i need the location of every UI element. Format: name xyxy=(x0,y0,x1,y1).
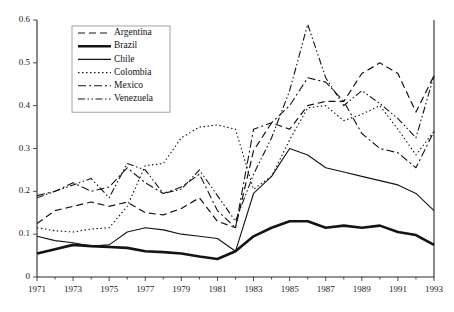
legend-label-argentina: Argentina xyxy=(114,27,153,37)
x-tick-label: 1981 xyxy=(208,284,226,294)
series-line-chile xyxy=(37,149,434,252)
x-tick-label: 1973 xyxy=(64,284,83,294)
x-tick-label: 1991 xyxy=(389,284,407,294)
x-axis-ticks: 1971197319751977197919811983198519871989… xyxy=(28,277,444,294)
x-tick-label: 1979 xyxy=(172,284,191,294)
legend-label-brazil: Brazil xyxy=(114,40,138,50)
legend-label-colombia: Colombia xyxy=(114,67,152,77)
y-tick-label: 0.5 xyxy=(19,57,31,67)
x-tick-label: 1993 xyxy=(425,284,444,294)
legend: ArgentinaBrazilChileColombiaMexicoVenezu… xyxy=(72,26,170,112)
y-tick-label: 0.4 xyxy=(19,100,31,110)
line-chart: 00.10.20.30.40.50.6 19711973197519771979… xyxy=(0,0,454,312)
legend-label-mexico: Mexico xyxy=(114,80,143,90)
y-tick-label: 0 xyxy=(26,271,31,281)
x-tick-label: 1987 xyxy=(317,284,336,294)
y-axis-ticks: 00.10.20.30.40.50.6 xyxy=(19,14,37,281)
chart-canvas: 00.10.20.30.40.50.6 19711973197519771979… xyxy=(0,0,454,312)
y-tick-label: 0.2 xyxy=(19,185,30,195)
y-tick-label: 0.6 xyxy=(19,14,31,24)
series-line-colombia xyxy=(37,106,434,232)
y-tick-label: 0.3 xyxy=(19,143,31,153)
x-tick-label: 1971 xyxy=(28,284,46,294)
x-tick-label: 1975 xyxy=(100,284,119,294)
legend-label-chile: Chile xyxy=(114,54,135,64)
x-tick-label: 1985 xyxy=(281,284,300,294)
legend-label-venezuela: Venezuela xyxy=(114,93,154,103)
x-tick-label: 1977 xyxy=(136,284,155,294)
x-tick-label: 1989 xyxy=(353,284,372,294)
y-tick-label: 0.1 xyxy=(19,228,30,238)
x-tick-label: 1983 xyxy=(245,284,264,294)
